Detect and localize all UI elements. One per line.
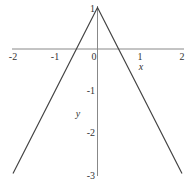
- y-tick-label: -1: [87, 85, 95, 96]
- x-tick-label: -1: [51, 51, 59, 62]
- x-axis-label: x: [138, 61, 144, 72]
- y-axis-label: y: [75, 108, 81, 119]
- x-tick-label: 2: [180, 51, 185, 62]
- y-tick-label: -2: [87, 127, 95, 138]
- chart: -2 -1 0 1 2 1 -1 -2 -3 x y: [0, 0, 189, 183]
- x-tick-label: -2: [9, 51, 17, 62]
- x-tick-label: 0: [92, 51, 97, 62]
- y-tick-label: -3: [87, 170, 95, 181]
- y-tick-label: 1: [90, 3, 95, 14]
